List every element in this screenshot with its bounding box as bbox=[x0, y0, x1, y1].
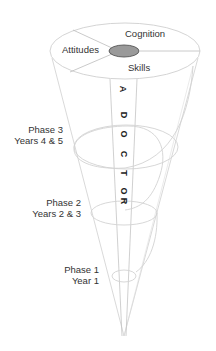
band-letter-o1: O bbox=[119, 129, 129, 139]
cone-right-edge-inner bbox=[124, 66, 193, 336]
spiral-cone-diagram bbox=[0, 0, 216, 351]
center-core bbox=[109, 45, 139, 57]
band-letter-t: T bbox=[119, 168, 129, 178]
label-cognition: Cognition bbox=[125, 28, 165, 39]
phase-3-title: Phase 3 bbox=[14, 124, 63, 135]
phase-3-years: Years 4 & 5 bbox=[14, 135, 63, 146]
spiral-top-descent bbox=[74, 66, 193, 210]
cone-right-edge bbox=[124, 58, 198, 336]
phase-1-years: Year 1 bbox=[64, 275, 99, 286]
label-attitudes: Attitudes bbox=[62, 44, 99, 55]
phase-2-label: Phase 2 Years 2 & 3 bbox=[32, 197, 81, 219]
band-letter-d: D bbox=[119, 110, 129, 120]
label-skills: Skills bbox=[128, 62, 150, 73]
phase-2-title: Phase 2 bbox=[32, 197, 81, 208]
band-letter-r: R bbox=[119, 196, 129, 206]
phase-1-title: Phase 1 bbox=[64, 264, 99, 275]
phase-3-label: Phase 3 Years 4 & 5 bbox=[14, 124, 63, 146]
band-letter-c: C bbox=[119, 149, 129, 159]
band-letter-a: A bbox=[118, 84, 128, 94]
phase-1-label: Phase 1 Year 1 bbox=[64, 264, 99, 286]
band-letter-o2: O bbox=[119, 186, 129, 196]
phase-2-years: Years 2 & 3 bbox=[32, 208, 81, 219]
phase-1-loop bbox=[112, 270, 136, 282]
